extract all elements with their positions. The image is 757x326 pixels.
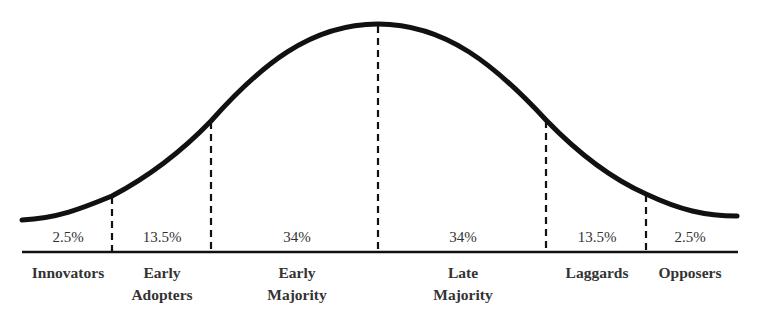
bell-curve-chart [0, 0, 757, 326]
category-label-laggards: Laggards [566, 262, 629, 284]
category-label-late-majority: Late Majority [433, 262, 492, 306]
percent-label-opposers: 2.5% [674, 229, 705, 246]
percent-label-early-adopters: 13.5% [143, 229, 182, 246]
category-label-opposers: Opposers [659, 262, 722, 284]
category-label-early-adopters: Early Adopters [131, 262, 192, 306]
percent-label-late-majority: 34% [449, 229, 477, 246]
percent-label-laggards: 13.5% [578, 229, 617, 246]
category-label-innovators: Innovators [32, 262, 104, 284]
percent-label-innovators: 2.5% [52, 229, 83, 246]
percent-label-early-majority: 34% [283, 229, 311, 246]
category-label-early-majority: Early Majority [267, 262, 326, 306]
bell-curve [22, 24, 737, 220]
